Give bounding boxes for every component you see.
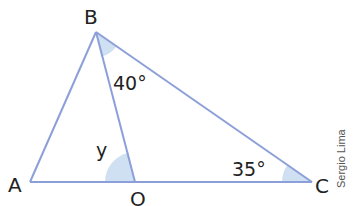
angle-b-label: 40° [113,72,147,94]
label-c: C [315,174,329,198]
triangle-diagram: B A O C 40° y 35° Sergio Lima [0,0,359,206]
label-o: O [130,187,146,206]
label-a: A [8,173,22,197]
angle-c-label: 35° [232,158,266,180]
label-b: B [84,5,98,29]
angle-o-label: y [96,139,107,161]
image-credit: Sergio Lima [335,128,347,188]
segment-ab [30,32,96,182]
